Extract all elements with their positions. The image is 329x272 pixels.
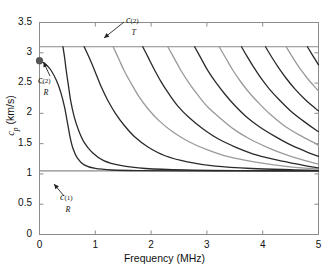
y-tick-3: 3 — [4, 46, 32, 57]
series-mode-8 — [242, 47, 319, 132]
series-mode-2 — [84, 47, 318, 171]
x-tick-0: 0 — [30, 239, 50, 250]
y-tick-3.5: 3.5 — [4, 16, 32, 27]
series-mode-4 — [143, 47, 319, 168]
series-mode-0 — [40, 61, 319, 171]
series-mode-11 — [307, 47, 318, 65]
x-tick-5: 5 — [309, 239, 329, 250]
y-axis-label-sub: p — [11, 127, 20, 131]
figure-dispersion-curves: cp (km/s) Frequency (MHz) 00.511.522.533… — [0, 0, 329, 272]
y-tick-2: 2 — [4, 106, 32, 117]
annotation-cr2: c (2) R — [38, 74, 54, 85]
annotation-cr1: c (1) R — [60, 191, 76, 202]
annotation-ct2: c (2) T — [126, 14, 142, 25]
marker-c_R^(2)-start — [36, 57, 43, 64]
x-tick-2: 2 — [141, 239, 161, 250]
series-mode-5 — [168, 47, 319, 165]
x-tick-4: 4 — [253, 239, 273, 250]
y-tick-2.5: 2.5 — [4, 76, 32, 87]
y-tick-0: 0 — [4, 228, 32, 239]
plot-canvas — [0, 0, 329, 272]
y-tick-1: 1 — [4, 167, 32, 178]
y-tick-1.5: 1.5 — [4, 137, 32, 148]
x-tick-3: 3 — [197, 239, 217, 250]
y-tick-0.5: 0.5 — [4, 197, 32, 208]
x-tick-1: 1 — [85, 239, 105, 250]
series-mode-7 — [219, 47, 318, 146]
plot-frame — [40, 23, 319, 235]
x-axis-label: Frequency (MHz) — [0, 252, 329, 264]
